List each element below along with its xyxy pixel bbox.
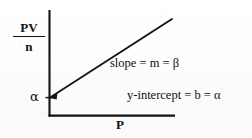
slope-annotation: slope = m = β xyxy=(110,57,179,70)
figure-canvas: PV n α P slope = m = β y-intercept = b =… xyxy=(0,0,252,138)
x-axis-label: P xyxy=(116,118,124,131)
y-axis-label-numerator: PV xyxy=(13,21,45,35)
intercept-annotation: y-intercept = b = α xyxy=(127,89,221,102)
y-axis-label-denominator: n xyxy=(13,39,45,53)
fraction-bar xyxy=(13,36,45,37)
y-intercept-tick-label: α xyxy=(30,90,39,103)
y-axis-label: PV n xyxy=(13,21,45,53)
